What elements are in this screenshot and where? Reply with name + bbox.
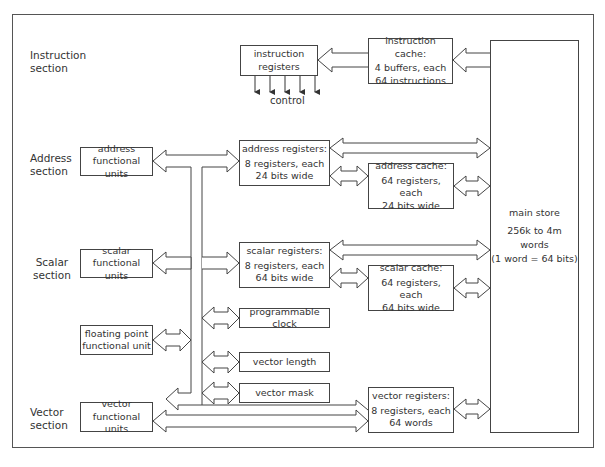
address-cache-title: address cache:: [375, 160, 447, 173]
address-cache: address cache: 64 registers, each 24 bit…: [368, 163, 454, 209]
main-store-title: main store: [509, 207, 560, 220]
address-registers-title: address registers:: [242, 143, 327, 156]
arrow-bus-clock: [202, 307, 239, 329]
vector-length-label: vector length: [253, 356, 316, 369]
vector-mask: vector mask: [239, 383, 330, 403]
scalar-cache-body: 64 registers, each 64 bits wide: [369, 277, 453, 315]
arrow-vregs-store: [454, 399, 490, 419]
address-cache-body: 64 registers, each 24 bits wide: [369, 175, 453, 213]
arrow-store-to-icache: [453, 48, 490, 72]
scalar-registers: scalar registers: 8 registers, each 64 b…: [239, 242, 330, 288]
arrow-acache-store: [454, 176, 490, 196]
vector-registers-body: 8 registers, each 64 words: [371, 405, 451, 430]
scalar-cache: scalar cache: 64 registers, each 64 bits…: [368, 265, 454, 311]
scalar-functional-units: scalar functional units: [80, 249, 153, 278]
arrow-vector-fu-vregs: [153, 410, 368, 432]
instruction-registers-label: instruction registers: [254, 48, 305, 73]
scalar-registers-body: 8 registers, each 64 bits wide: [245, 260, 325, 285]
vector-functional-units: vector functional units: [80, 402, 153, 432]
main-store: main store 256k to 4m words (1 word = 64…: [490, 40, 579, 433]
fp-fu-label: floating point functional unit: [82, 328, 151, 353]
scalar-registers-title: scalar registers:: [246, 245, 322, 258]
address-functional-units: address functional units: [80, 147, 153, 176]
vector-fu-label: vector functional units: [81, 398, 152, 436]
arrow-aregs-acache: [330, 166, 368, 186]
instruction-section-label: Instruction section: [30, 49, 86, 75]
instruction-cache-body: 4 buffers, each 64 instructions: [375, 62, 446, 87]
scalar-cache-title: scalar cache:: [380, 262, 443, 275]
programmable-clock-label: programmable clock: [240, 306, 329, 331]
floating-point-functional-unit: floating point functional unit: [80, 325, 153, 355]
scalar-fu-label: scalar functional units: [81, 245, 152, 283]
vector-registers: vector registers: 8 registers, each 64 w…: [368, 387, 454, 433]
address-registers: address registers: 8 registers, each 24 …: [239, 140, 330, 186]
main-store-body: 256k to 4m words (1 word = 64 bits): [491, 224, 577, 266]
scalar-section-label: Scalar section: [33, 256, 71, 282]
address-section-label: Address section: [30, 152, 72, 178]
instruction-cache-title: instruction cache:: [369, 35, 452, 60]
arrow-bus-vmask: [202, 382, 239, 404]
address-registers-body: 8 registers, each 24 bits wide: [245, 158, 325, 183]
vector-registers-title: vector registers:: [372, 390, 450, 403]
arrow-aregs-store: [330, 138, 490, 158]
address-fu-label: address functional units: [81, 143, 152, 181]
control-label: control: [270, 95, 305, 106]
arrow-icache-to-iregs: [318, 48, 368, 72]
instruction-registers: instruction registers: [240, 45, 318, 76]
arrow-bus-vlength: [202, 351, 239, 373]
vector-mask-label: vector mask: [255, 387, 314, 400]
arrow-sregs-store: [330, 240, 490, 260]
vector-section-label: Vector section: [30, 406, 68, 432]
arrow-sregs-scache: [330, 268, 368, 288]
arrow-scache-store: [454, 278, 490, 298]
instruction-cache: instruction cache: 4 buffers, each 64 in…: [368, 38, 453, 84]
control-lines: [255, 75, 315, 92]
arrow-bus-scalar-regs: [202, 252, 239, 274]
arrow-address-bus: [153, 150, 239, 410]
arrow-scalar-bus: [153, 252, 191, 274]
vector-length: vector length: [239, 352, 330, 372]
arrow-fp-bus: [153, 329, 191, 351]
programmable-clock: programmable clock: [239, 308, 330, 328]
